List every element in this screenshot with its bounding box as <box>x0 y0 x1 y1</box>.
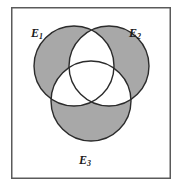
circle-label-e1-subscript: 1 <box>39 32 43 41</box>
venn-diagram-canvas <box>0 0 184 191</box>
circle-label-e3-subscript: 3 <box>87 159 91 168</box>
circle-label-e3-base: E <box>79 153 87 167</box>
circle-label-e1: E1 <box>31 27 43 39</box>
circle-label-e1-base: E <box>31 26 39 40</box>
circle-label-e2-subscript: 2 <box>137 32 141 41</box>
venn-diagram-figure: E1 E2 E3 <box>0 0 184 191</box>
circle-label-e3: E3 <box>79 154 91 166</box>
circle-label-e2-base: E <box>129 26 137 40</box>
region-e3-only-shaded <box>0 0 184 191</box>
circle-label-e2: E2 <box>129 27 141 39</box>
